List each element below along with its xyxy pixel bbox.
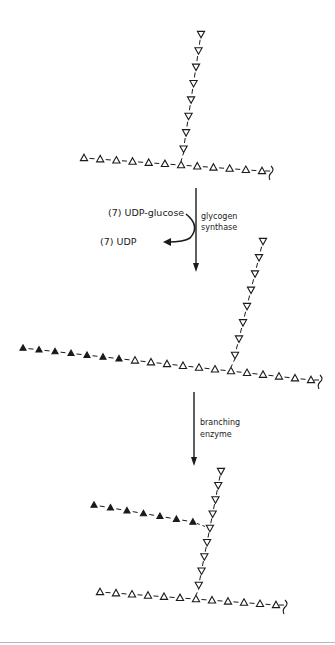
filled-glucose-residue xyxy=(91,502,97,507)
open-glucose-residue xyxy=(96,588,103,594)
branch-bond xyxy=(196,589,199,595)
open-glucose-residue xyxy=(242,166,249,172)
arrow-head-icon xyxy=(191,457,197,466)
open-glucose-residue xyxy=(187,97,194,103)
enzyme-label-line1: glycogen xyxy=(201,212,237,221)
open-glucose-residue xyxy=(192,64,199,70)
new-branch-bond xyxy=(197,523,205,526)
open-glucose-residue xyxy=(235,336,242,342)
open-glucose-residue xyxy=(204,540,211,546)
glycosidic-bond xyxy=(109,358,114,359)
glycosidic-bond xyxy=(214,504,215,509)
glycosidic-bond xyxy=(211,518,212,523)
filled-glucose-residue xyxy=(52,348,58,353)
open-glucose-residue xyxy=(243,303,250,309)
open-glucose-residue xyxy=(179,362,186,368)
udp-glucose-side-arrow xyxy=(163,214,195,246)
glycosidic-bond xyxy=(253,374,258,375)
structure-branched-glycogen xyxy=(91,468,287,614)
open-glucose-residue xyxy=(195,582,202,588)
glycosidic-bond xyxy=(93,356,98,357)
open-glucose-residue xyxy=(217,468,224,474)
open-glucose-residue xyxy=(258,167,265,173)
open-glucose-residue xyxy=(255,255,262,261)
open-glucose-residue xyxy=(247,287,254,293)
structure-elongated-glycogen xyxy=(20,238,322,389)
open-glucose-residue xyxy=(275,373,282,379)
filled-glucose-residue xyxy=(157,513,163,518)
glycosidic-bond xyxy=(221,370,226,371)
branch-bond xyxy=(181,153,183,161)
glycosidic-bond xyxy=(116,509,121,510)
glycosidic-bond xyxy=(173,365,178,366)
filled-glucose-residue xyxy=(68,350,74,355)
glycosidic-bond xyxy=(157,363,162,364)
product-label: (7) UDP xyxy=(100,236,137,247)
glycosidic-bond xyxy=(149,514,154,515)
glycosidic-bond xyxy=(199,40,200,45)
reducing-end-icon xyxy=(265,166,273,180)
open-glucose-residue xyxy=(206,525,213,531)
open-glucose-residue xyxy=(251,271,258,277)
open-glucose-residue xyxy=(129,158,136,164)
open-glucose-residue xyxy=(198,568,205,574)
open-glucose-residue xyxy=(144,592,151,598)
filled-glucose-residue xyxy=(36,347,42,352)
open-glucose-residue xyxy=(226,165,233,171)
open-glucose-residue xyxy=(215,483,222,489)
glycosidic-bond xyxy=(197,56,198,61)
open-glucose-residue xyxy=(307,376,314,382)
glycosidic-bond xyxy=(208,533,209,538)
open-glucose-residue xyxy=(182,130,189,136)
glycosidic-bond xyxy=(100,506,105,507)
glycosidic-bond xyxy=(240,328,241,333)
glycosidic-bond xyxy=(77,354,82,355)
open-glucose-residue xyxy=(195,364,202,370)
open-glucose-residue xyxy=(160,593,167,599)
branching-enzyme-label-line1: branching xyxy=(200,418,240,427)
open-glucose-residue xyxy=(259,371,266,377)
open-glucose-residue xyxy=(112,589,119,595)
open-glucose-residue xyxy=(231,352,238,358)
open-glucose-residue xyxy=(192,595,199,601)
open-glucose-residue xyxy=(147,358,154,364)
glycosidic-bond xyxy=(61,352,66,353)
open-glucose-residue xyxy=(190,80,197,86)
filled-glucose-residue xyxy=(124,507,130,512)
glycosidic-bond xyxy=(125,359,130,360)
glycosidic-bond xyxy=(182,520,187,521)
glycosidic-bond xyxy=(216,490,217,495)
open-glucose-residue xyxy=(131,357,138,363)
open-glucose-residue xyxy=(145,159,152,165)
open-glucose-residue xyxy=(210,164,217,170)
arrow-head-icon xyxy=(193,263,199,272)
glycosidic-bond xyxy=(236,344,237,349)
glycosidic-bond xyxy=(133,512,138,513)
glycosidic-bond xyxy=(189,366,194,367)
glycosidic-bond xyxy=(29,349,34,350)
open-glucose-residue xyxy=(128,591,135,597)
reducing-end-icon xyxy=(314,375,322,389)
glycosidic-bond xyxy=(269,375,274,376)
bottom-rule xyxy=(0,642,335,643)
open-glucose-residue xyxy=(180,146,187,152)
glycosidic-bond xyxy=(260,247,261,252)
open-glucose-residue xyxy=(195,48,202,54)
filled-glucose-residue xyxy=(107,505,113,510)
glycosidic-bond xyxy=(192,89,193,94)
branching-enzyme-arrow xyxy=(191,392,197,466)
branching-enzyme-label-line2: enzyme xyxy=(200,430,232,439)
glycosidic-bond xyxy=(184,138,185,143)
reactant-label: (7) UDP-glucose xyxy=(108,207,184,218)
open-glucose-residue xyxy=(224,598,231,604)
filled-glucose-residue xyxy=(116,355,122,360)
glycogen-diagram: (7) UDP-glucose (7) UDP glycogen synthas… xyxy=(0,0,335,645)
open-glucose-residue xyxy=(240,599,247,605)
glycosidic-bond xyxy=(244,312,245,317)
glycosidic-bond xyxy=(141,361,146,362)
open-glucose-residue xyxy=(80,154,87,160)
open-glucose-residue xyxy=(227,367,234,373)
glycosidic-bond xyxy=(189,105,190,110)
reducing-end-icon xyxy=(279,600,287,614)
open-glucose-residue xyxy=(177,161,184,167)
